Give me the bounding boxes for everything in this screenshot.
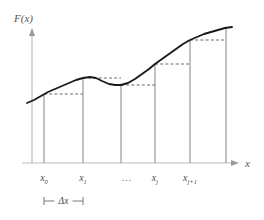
x-tick-label-xj: xj — [151, 172, 158, 185]
step-tops-group — [44, 40, 226, 94]
riemann-sum-figure: F(x) x x0x1xjxj+1 ... Δx — [0, 0, 264, 220]
x-tick-label-x0: x0 — [39, 172, 48, 185]
axes-group — [22, 28, 239, 166]
x-axis-label: x — [244, 157, 250, 169]
partition-bars-group — [44, 28, 226, 163]
x-tick-label-xj1: xj+1 — [182, 172, 197, 185]
x-tick-label-x1: x1 — [78, 172, 87, 185]
function-curve — [27, 27, 232, 103]
arrow-up-icon — [29, 28, 35, 36]
arrow-right-icon — [231, 160, 239, 166]
figure-container: F(x) x x0x1xjxj+1 ... Δx — [0, 0, 264, 220]
x-tick-labels-group: x0x1xjxj+1 — [39, 172, 197, 185]
delta-x-bracket: Δx — [44, 196, 83, 206]
y-axis-label: F(x) — [13, 12, 33, 25]
ellipsis-label: ... — [122, 172, 133, 183]
delta-x-label: Δx — [58, 196, 70, 206]
